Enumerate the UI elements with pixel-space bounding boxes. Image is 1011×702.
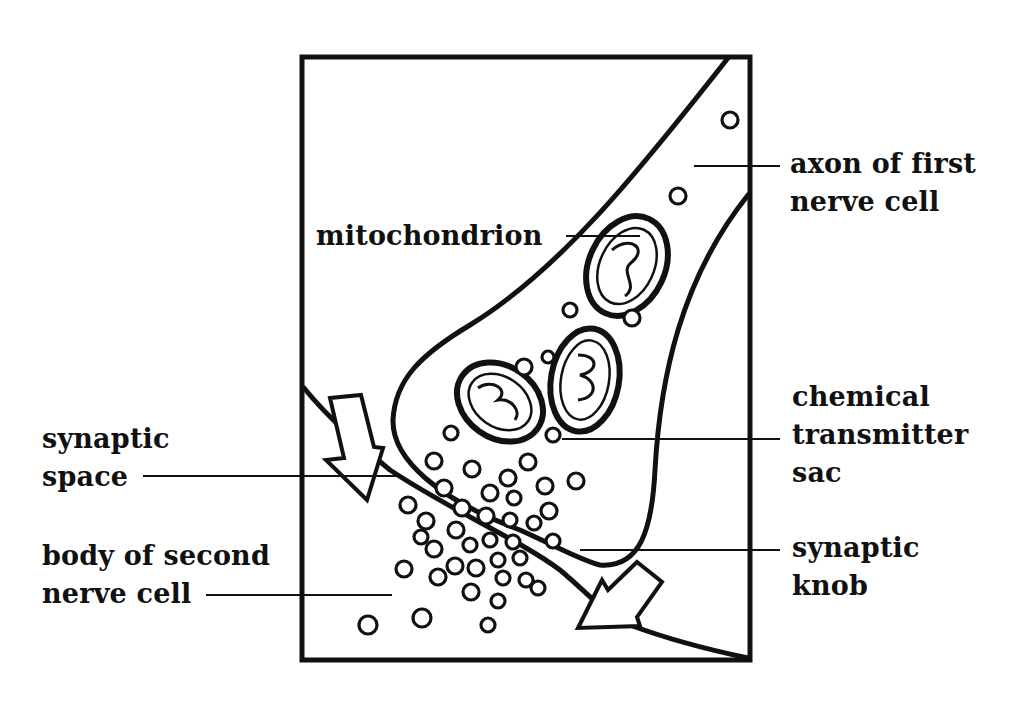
label-chemical-transmitter-sac: chemical transmitter sac (792, 378, 968, 492)
mitochondrion-lower (442, 346, 559, 458)
label-body-second-nerve-cell: body of second nerve cell (42, 537, 270, 613)
label-axon: axon of first nerve cell (790, 145, 976, 221)
label-synaptic-knob: synaptic knob (792, 529, 920, 605)
mitochondrion-middle (542, 323, 627, 437)
label-synaptic-space: synaptic space (42, 420, 170, 496)
label-mitochondrion: mitochondrion (316, 217, 543, 255)
transmitter-vesicles (359, 112, 738, 634)
arrow-left-icon (326, 395, 383, 500)
